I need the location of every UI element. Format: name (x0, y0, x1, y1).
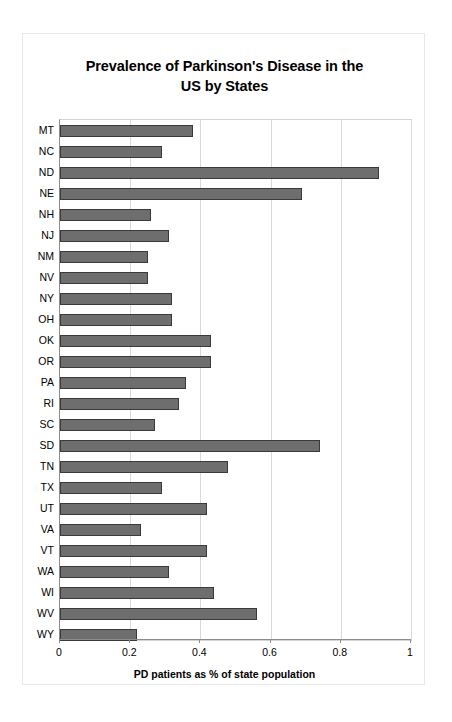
x-axis-line (59, 639, 411, 640)
y-axis-tick-label: TX (41, 481, 54, 494)
y-axis-tick-label: OH (38, 313, 54, 326)
bar-row: SC (60, 415, 411, 436)
bar-row: PA (60, 373, 411, 394)
plot-area: MTNCNDNENHNJNMNVNYOHOKORPARISCSDTNTXUTVA… (59, 119, 412, 641)
y-axis-tick-label: NH (39, 208, 54, 221)
y-axis-tick-label: MT (39, 124, 54, 137)
bar-row: TN (60, 457, 411, 478)
bar (60, 314, 172, 326)
bar (60, 209, 151, 221)
bar-row: WI (60, 583, 411, 604)
x-axis-tick-mark (410, 639, 411, 643)
bar (60, 335, 211, 347)
bar (60, 461, 228, 473)
x-axis-tick-label: 0.8 (320, 646, 360, 658)
bar-row: NY (60, 289, 411, 310)
plot-wrapper: MTNCNDNENHNJNMNVNYOHOKORPARISCSDTNTXUTVA… (23, 34, 426, 686)
bar-row: NE (60, 184, 411, 205)
bar-row: WA (60, 562, 411, 583)
chart-figure: Prevalence of Parkinson's Disease in the… (22, 33, 425, 685)
y-axis-tick-label: NE (39, 187, 54, 200)
x-axis-tick-mark (340, 639, 341, 643)
x-axis-title: PD patients as % of state population (23, 668, 426, 680)
bar (60, 566, 169, 578)
bar-row: SD (60, 436, 411, 457)
bar-row: VT (60, 541, 411, 562)
bar (60, 503, 207, 515)
y-axis-tick-label: OR (38, 355, 54, 368)
y-axis-tick-label: PA (41, 376, 54, 389)
y-axis-tick-label: RI (44, 397, 55, 410)
bar-row: MT (60, 121, 411, 142)
y-axis-tick-label: NV (39, 271, 54, 284)
y-axis-tick-label: WY (37, 628, 54, 641)
bar (60, 272, 148, 284)
bar-row: OK (60, 331, 411, 352)
bar (60, 398, 179, 410)
y-axis-tick-label: NM (38, 250, 54, 263)
bar (60, 377, 186, 389)
x-axis-tick-mark (129, 639, 130, 643)
bar (60, 587, 214, 599)
y-axis-tick-label: OK (39, 334, 54, 347)
bar-row: OR (60, 352, 411, 373)
bar-row: UT (60, 499, 411, 520)
y-axis-tick-label: NC (39, 145, 54, 158)
bar (60, 419, 155, 431)
x-axis-tick-label: 0 (39, 646, 79, 658)
gridline (411, 120, 412, 640)
bar (60, 146, 162, 158)
bar-row: NH (60, 205, 411, 226)
x-axis-tick-label: 0.2 (109, 646, 149, 658)
y-axis-tick-label: TN (40, 460, 54, 473)
y-axis-tick-label: WA (37, 565, 54, 578)
bar-row: NV (60, 268, 411, 289)
bar (60, 167, 379, 179)
bar (60, 230, 169, 242)
y-axis-tick-label: SD (39, 439, 54, 452)
bar (60, 482, 162, 494)
y-axis-tick-label: NJ (41, 229, 54, 242)
bar (60, 524, 141, 536)
bar-row: NJ (60, 226, 411, 247)
y-axis-tick-label: NY (39, 292, 54, 305)
y-axis-tick-label: SC (39, 418, 54, 431)
bar-row: ND (60, 163, 411, 184)
bar-row: TX (60, 478, 411, 499)
bar-row: RI (60, 394, 411, 415)
x-axis-tick-label: 0.4 (179, 646, 219, 658)
bar-row: OH (60, 310, 411, 331)
bar-row: WY (60, 625, 411, 646)
y-axis-tick-label: UT (40, 502, 54, 515)
x-axis-tick-label: 0.6 (250, 646, 290, 658)
y-axis-tick-label: ND (39, 166, 54, 179)
x-axis-tick-mark (270, 639, 271, 643)
bar-row: WV (60, 604, 411, 625)
bar-row: NM (60, 247, 411, 268)
bar (60, 293, 172, 305)
y-axis-tick-label: WI (41, 586, 54, 599)
bar-row: NC (60, 142, 411, 163)
bar (60, 545, 207, 557)
bar (60, 188, 302, 200)
bar (60, 440, 320, 452)
y-axis-tick-label: WV (37, 607, 54, 620)
y-axis-tick-label: VA (41, 523, 54, 536)
bar-row: VA (60, 520, 411, 541)
x-axis-tick-mark (59, 639, 60, 643)
x-axis-tick-label: 1 (390, 646, 430, 658)
y-axis-tick-label: VT (41, 544, 54, 557)
x-axis-tick-mark (199, 639, 200, 643)
bar (60, 608, 257, 620)
bar (60, 251, 148, 263)
bar (60, 125, 193, 137)
bar (60, 356, 211, 368)
